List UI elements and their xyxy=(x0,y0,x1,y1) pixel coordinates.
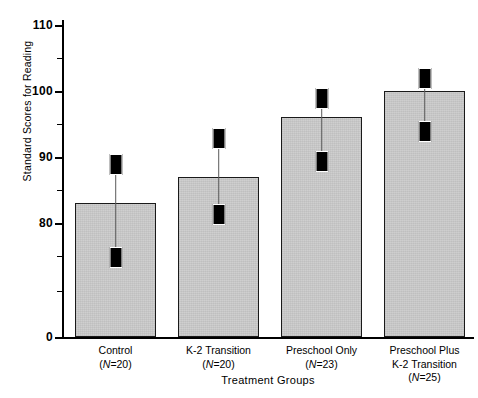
plot-area: 08090100110 xyxy=(62,20,474,338)
y-tick-label-90: 90 xyxy=(39,150,53,164)
error-bar-3 xyxy=(281,20,362,338)
y-minor-tick-105 xyxy=(57,58,62,59)
error-bar-lower-cap-3 xyxy=(315,151,328,172)
error-bar-1 xyxy=(75,20,156,338)
y-minor-tick-85 xyxy=(57,190,62,191)
error-bar-upper-cap-3 xyxy=(315,88,328,109)
y-minor-tick-break xyxy=(57,291,62,292)
error-bar-upper-cap-1 xyxy=(109,154,122,175)
y-tick-0 xyxy=(55,337,62,339)
error-bar-lower-cap-1 xyxy=(109,247,122,268)
error-bar-line-1 xyxy=(115,164,117,256)
y-tick-label-0: 0 xyxy=(46,330,53,344)
bar-chart-figure: Standard Scores for Reading 08090100110 … xyxy=(0,0,478,398)
x-label-text-4-1: Preschool Plus xyxy=(340,344,478,358)
error-bar-upper-cap-2 xyxy=(212,128,225,149)
y-tick-110 xyxy=(55,25,62,27)
x-axis-title: Treatment Groups xyxy=(62,374,474,386)
error-bar-4 xyxy=(384,20,465,338)
error-bar-lower-cap-4 xyxy=(418,121,431,142)
error-bar-2 xyxy=(178,20,259,338)
y-tick-100 xyxy=(55,91,62,93)
y-tick-80 xyxy=(55,223,62,225)
x-label-text-4-2: K-2 Transition xyxy=(340,358,478,372)
y-minor-tick-95 xyxy=(57,124,62,125)
y-axis-title: Standard Scores for Reading xyxy=(21,6,33,216)
error-bar-lower-cap-2 xyxy=(212,204,225,225)
y-tick-label-100: 100 xyxy=(32,84,53,98)
error-bar-upper-cap-4 xyxy=(418,68,431,89)
y-tick-90 xyxy=(55,157,62,159)
y-minor-tick-75 xyxy=(57,256,62,257)
y-axis-line xyxy=(62,20,64,338)
y-tick-label-110: 110 xyxy=(33,18,53,32)
y-tick-label-80: 80 xyxy=(39,216,53,230)
